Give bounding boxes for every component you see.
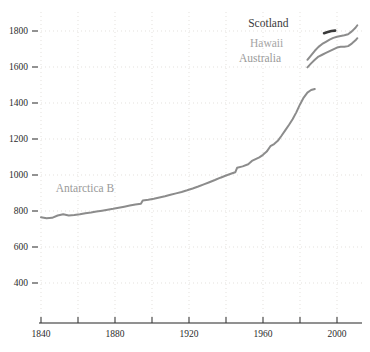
y-tick-label: 1800	[9, 26, 28, 36]
chart-canvas: 40060080010001200140016001800 1840188019…	[0, 0, 370, 352]
horizontal-gridlines	[41, 31, 362, 283]
series-label-scotland: Scotland	[248, 17, 288, 29]
series-line-australia	[307, 38, 357, 67]
series-label-hawaii: Hawaii	[250, 37, 283, 49]
y-axis-tickmarks	[32, 31, 38, 283]
y-tick-label: 1400	[9, 98, 28, 108]
x-axis-tick-labels: 18401880192019602000	[32, 329, 347, 339]
series-label-australia: Australia	[239, 52, 281, 64]
series-line-antarctica-b	[41, 89, 315, 218]
x-tick-label: 1960	[254, 329, 273, 339]
y-tick-label: 800	[14, 206, 29, 216]
y-axis-tick-labels: 40060080010001200140016001800	[9, 26, 28, 288]
methane-concentration-chart: 40060080010001200140016001800 1840188019…	[0, 0, 370, 352]
y-tick-label: 1000	[9, 170, 28, 180]
y-tick-label: 400	[14, 278, 29, 288]
y-tick-label: 600	[14, 242, 29, 252]
x-tick-label: 1920	[180, 329, 199, 339]
y-tick-label: 1600	[9, 62, 28, 72]
x-tick-label: 1880	[106, 329, 125, 339]
series-annotation-labels: Antarctica BAustraliaHawaiiScotland	[56, 17, 289, 195]
vertical-gridlines	[41, 12, 337, 317]
y-tick-label: 1200	[9, 134, 28, 144]
x-tick-label: 1840	[32, 329, 51, 339]
x-axis-tickmarks	[41, 317, 337, 323]
x-tick-label: 2000	[328, 329, 347, 339]
series-label-antarctica-b: Antarctica B	[56, 182, 115, 194]
